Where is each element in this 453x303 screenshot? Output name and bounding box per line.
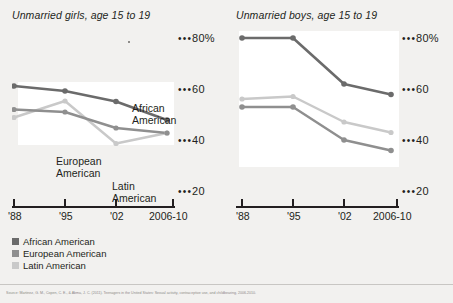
y-axis-tick-80: •••80%: [402, 33, 439, 44]
legend-label-latin-american: Latin American: [23, 261, 86, 271]
x-axis-label-2006-10: 2006-10: [149, 210, 188, 222]
series-line-european-american: [242, 107, 391, 151]
y-axis-tick-40: •••40: [402, 135, 429, 146]
y-axis-tick-label-80: 80%: [416, 32, 439, 44]
y-axis-tick-40: •••40: [178, 135, 205, 146]
legend-swatch-european-american: [12, 250, 19, 257]
x-axis-label-95: '95: [59, 210, 73, 222]
annotation-african-line2: American: [132, 115, 176, 127]
annotation-african-line1: African: [132, 103, 176, 115]
y-axis-tick-20: •••20: [178, 186, 205, 197]
series-lines-boys: [236, 31, 399, 191]
chart-panel-girls: Unmarried girls, age 15 to 19: [0, 0, 228, 245]
annotation-african-american: African American: [132, 103, 176, 126]
y-axis-tick-label-60: 60: [416, 83, 429, 95]
y-axis-tick-label-80: 80%: [192, 32, 215, 44]
footer-source-note: Source: Martinez, G. M., Copen, C. E., &…: [6, 291, 451, 296]
legend-item-latin-american: Latin American: [12, 260, 106, 271]
tick-dots: •••: [402, 135, 416, 146]
x-axis-label-02: '02: [338, 210, 352, 222]
series-markers-african-american: [239, 35, 394, 97]
tick-dots: •••: [178, 33, 192, 44]
annotation-latin-line1: Latin: [112, 181, 156, 193]
x-axis-label-95: '95: [287, 210, 301, 222]
plot-area-girls: African American European American Latin…: [12, 31, 175, 191]
tick-dots: •••: [178, 84, 192, 95]
legend-swatch-latin-american: [12, 262, 19, 269]
x-axis-tick: [396, 199, 398, 207]
y-axis-tick-label-20: 20: [192, 185, 205, 197]
chart-panel-boys: Unmarried boys, age 15 to 19: [228, 0, 453, 245]
x-axis-tick: [13, 199, 15, 207]
y-axis-tick-label-60: 60: [192, 83, 205, 95]
x-axis-label-88: '88: [236, 210, 250, 222]
annotation-european-american: European American: [56, 156, 102, 179]
x-axis-tick: [64, 199, 66, 207]
x-axis-labels-boys: '88 '95 '02 2006-10: [228, 210, 418, 226]
series-line-latin-american: [242, 97, 391, 133]
legend-item-african-american: African American: [12, 236, 106, 247]
figure-root: Unmarried girls, age 15 to 19: [0, 0, 453, 303]
legend-label-european-american: European American: [23, 249, 106, 259]
x-axis-rule: [236, 206, 399, 208]
legend: African American European American Latin…: [12, 236, 106, 272]
tick-dots: •••: [402, 33, 416, 44]
y-axis-tick-80: •••80%: [178, 33, 215, 44]
plot-area-boys: [236, 31, 399, 191]
y-axis-tick-60: •••60: [178, 84, 205, 95]
x-axis-label-02: '02: [110, 210, 124, 222]
panel-title-girls: Unmarried girls, age 15 to 19: [12, 9, 150, 21]
x-axis-tick: [172, 199, 174, 207]
y-axis-tick-label-20: 20: [416, 185, 429, 197]
y-axis-tick-20: •••20: [402, 186, 429, 197]
y-axis-tick-60: •••60: [402, 84, 429, 95]
legend-swatch-african-american: [12, 238, 19, 245]
x-axis-tick: [292, 199, 294, 207]
panel-title-boys: Unmarried boys, age 15 to 19: [236, 9, 377, 21]
x-axis-tick: [343, 199, 345, 207]
x-axis-tick: [241, 199, 243, 207]
x-axis-boys: [236, 199, 399, 208]
footer-divider: [0, 284, 453, 285]
tick-dots: •••: [178, 186, 192, 197]
x-axis-label-2006-10: 2006-10: [373, 210, 412, 222]
annotation-european-line1: European: [56, 156, 102, 168]
legend-item-european-american: European American: [12, 248, 106, 259]
annotation-european-line2: American: [56, 168, 102, 180]
x-axis-labels-girls: '88 '95 '02 2006-10: [4, 210, 194, 226]
tick-dots: •••: [402, 84, 416, 95]
legend-label-african-american: African American: [23, 237, 95, 247]
y-axis-tick-label-40: 40: [192, 134, 205, 146]
y-axis-tick-label-40: 40: [416, 134, 429, 146]
tick-dots: •••: [402, 186, 416, 197]
x-axis-girls: [12, 199, 175, 208]
x-axis-rule: [12, 206, 175, 208]
tick-dots: •••: [178, 135, 192, 146]
series-line-african-american: [242, 38, 391, 95]
x-axis-label-88: '88: [8, 210, 22, 222]
x-axis-tick: [115, 199, 117, 207]
